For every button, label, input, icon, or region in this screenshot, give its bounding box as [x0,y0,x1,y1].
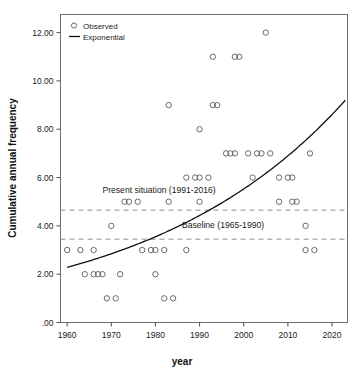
x-tick-label: 2000 [234,330,253,340]
observed-data-points [64,30,317,301]
x-tick-label: 1980 [146,330,165,340]
y-tick-label: 4.00 [37,221,54,231]
observed-point [276,175,281,180]
reference-line-label: Baseline (1965-1990) [182,220,264,230]
x-tick-label: 1990 [190,330,209,340]
observed-point [263,30,268,35]
observed-point [117,271,122,276]
observed-point [276,199,281,204]
observed-point [250,175,255,180]
observed-point [307,151,312,156]
y-tick-label: 6.00 [37,173,54,183]
reference-line-label: Present situation (1991-2016) [102,185,215,195]
observed-point [170,296,175,301]
observed-point [91,247,96,252]
observed-point [166,199,171,204]
x-tick-label: 1970 [102,330,121,340]
observed-point [312,247,317,252]
legend-observed-marker-icon [71,23,76,28]
x-axis-title: year [172,356,193,367]
observed-point [210,54,215,59]
exponential-fit-line [67,100,345,267]
observed-point [197,127,202,132]
y-axis-ticks: .002.004.006.008.0010.0012.00 [32,28,60,328]
cumulative-annual-frequency-scatter-chart: .002.004.006.008.0010.0012.00 1960197019… [0,0,364,377]
y-tick-label: 2.00 [37,269,54,279]
observed-point [139,247,144,252]
observed-point [162,247,167,252]
observed-point [166,102,171,107]
chart-legend: Observed Exponential [69,22,125,42]
chart-figure: .002.004.006.008.0010.0012.00 1960197019… [0,0,364,377]
observed-point [64,247,69,252]
observed-point [184,247,189,252]
y-tick-label: .00 [42,318,54,328]
observed-point [245,151,250,156]
legend-observed-label: Observed [83,22,118,31]
observed-point [162,296,167,301]
x-tick-label: 1960 [58,330,77,340]
observed-point [135,199,140,204]
y-tick-label: 12.00 [32,28,54,38]
observed-point [104,296,109,301]
observed-point [153,271,158,276]
observed-point [82,271,87,276]
x-axis-ticks: 1960197019801990200020102020 [58,323,342,340]
observed-point [184,175,189,180]
observed-point [78,247,83,252]
observed-point [206,175,211,180]
y-tick-label: 8.00 [37,124,54,134]
observed-point [303,223,308,228]
observed-point [303,247,308,252]
observed-point [197,199,202,204]
y-axis-title: Cumulative annual frequency [7,98,18,238]
legend-exponential-label: Exponential [83,33,125,42]
y-tick-label: 10.00 [32,76,54,86]
x-tick-label: 2020 [323,330,342,340]
observed-point [109,223,114,228]
x-tick-label: 2010 [278,330,297,340]
observed-point [268,151,273,156]
observed-point [113,296,118,301]
